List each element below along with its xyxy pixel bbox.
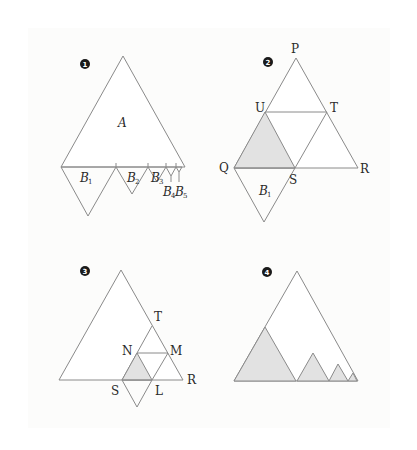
- triangle-main: [59, 270, 183, 380]
- triangle-b4: [166, 167, 176, 176]
- figure-4-badge: 4: [262, 267, 272, 277]
- diagram-svg: 1 A B 1 B 2: [0, 0, 417, 450]
- figure-3: 3 T N M S L R: [59, 266, 197, 407]
- label-b1: B 1: [79, 171, 92, 186]
- label-b2: B 2: [126, 171, 139, 186]
- point-p: P: [291, 42, 299, 56]
- point-s: S: [111, 384, 119, 398]
- figure-3-badge: 3: [80, 266, 90, 276]
- svg-text:2: 2: [135, 178, 139, 186]
- point-l: L: [155, 384, 163, 398]
- triangle-a: [61, 56, 185, 167]
- label-b5: B 5: [174, 185, 187, 200]
- svg-text:1: 1: [88, 178, 92, 186]
- badge-number: 1: [83, 61, 88, 69]
- diagram-canvas: 1 A B 1 B 2: [0, 0, 417, 450]
- badge-number: 3: [83, 268, 88, 276]
- point-s: S: [289, 173, 297, 187]
- point-r: R: [187, 373, 197, 387]
- point-r: R: [360, 162, 370, 176]
- point-t: T: [154, 310, 162, 324]
- figure-2: 2 P U T Q S R B 1: [219, 42, 370, 222]
- figure-2-badge: 2: [263, 57, 273, 67]
- svg-text:1: 1: [267, 191, 271, 199]
- svg-text:5: 5: [183, 192, 187, 200]
- label-a: A: [117, 116, 127, 130]
- triangle-b5: [176, 167, 182, 172]
- point-t: T: [330, 101, 338, 115]
- figure-1-badge: 1: [80, 59, 90, 69]
- figure-4: 4: [234, 267, 358, 381]
- point-u: U: [255, 101, 265, 115]
- badge-number: 2: [266, 59, 271, 67]
- triangle-below: [122, 380, 152, 407]
- badge-number: 4: [265, 269, 270, 277]
- label-b4: B 4: [162, 185, 176, 200]
- figure-1: 1 A B 1 B 2: [61, 56, 187, 216]
- label-b3: B 3: [150, 171, 163, 186]
- point-n: N: [122, 344, 133, 358]
- label-b1: B 1: [258, 184, 271, 199]
- point-m: M: [170, 344, 182, 358]
- point-q: Q: [219, 161, 229, 175]
